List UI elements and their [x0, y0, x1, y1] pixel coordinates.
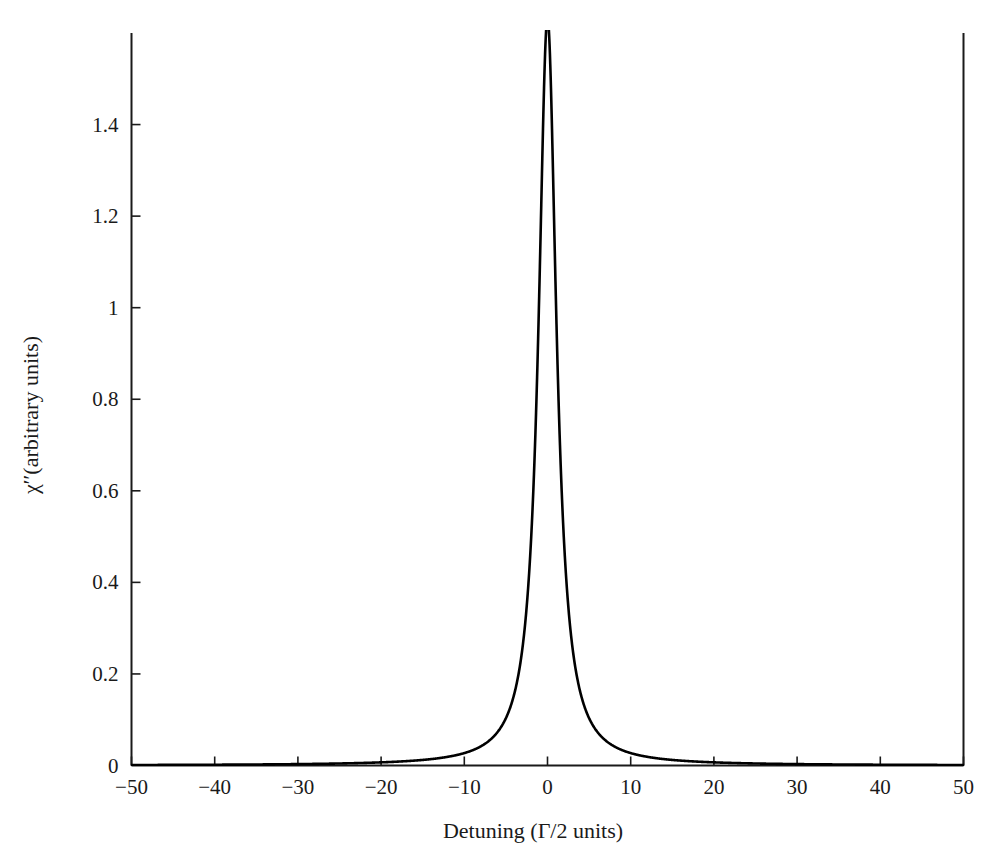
lorentzian-lineshape-figure: −50−40−30−20−1001020304050 00.20.40.60.8… — [0, 0, 1006, 865]
x-tick-label: 30 — [787, 775, 808, 799]
x-tick-label: 40 — [870, 775, 891, 799]
y-tick-label: 0.2 — [92, 662, 118, 686]
x-tick-label: 20 — [703, 775, 724, 799]
x-tick-label: −50 — [115, 775, 148, 799]
plot-background — [0, 0, 1006, 865]
y-tick-label: 0.4 — [92, 570, 119, 594]
y-tick-label: 1.2 — [92, 204, 118, 228]
y-tick-label: 0 — [108, 754, 119, 778]
x-tick-label: −30 — [281, 775, 314, 799]
x-axis-title-group: Detuning (Γ/2 units) — [443, 818, 623, 843]
y-axis-title-group: χ′′(arbitrary units) — [18, 336, 43, 495]
y-tick-label: 0.6 — [92, 479, 118, 503]
x-tick-label: 0 — [542, 775, 553, 799]
y-tick-label: 1 — [108, 296, 119, 320]
x-tick-label: −40 — [198, 775, 231, 799]
y-axis-title: χ′′(arbitrary units) — [18, 336, 43, 495]
y-axis-title-rest: (arbitrary units) — [18, 336, 43, 475]
y-axis-title-symbol: χ′′ — [18, 475, 43, 495]
x-axis-title: Detuning (Γ/2 units) — [443, 818, 623, 843]
x-tick-label: 10 — [620, 775, 641, 799]
plot-canvas: −50−40−30−20−1001020304050 00.20.40.60.8… — [0, 0, 1006, 865]
y-tick-label: 0.8 — [92, 387, 118, 411]
y-tick-label: 1.4 — [92, 113, 119, 137]
x-tick-label: −20 — [365, 775, 398, 799]
x-tick-label: 50 — [953, 775, 974, 799]
x-tick-label: −10 — [448, 775, 481, 799]
